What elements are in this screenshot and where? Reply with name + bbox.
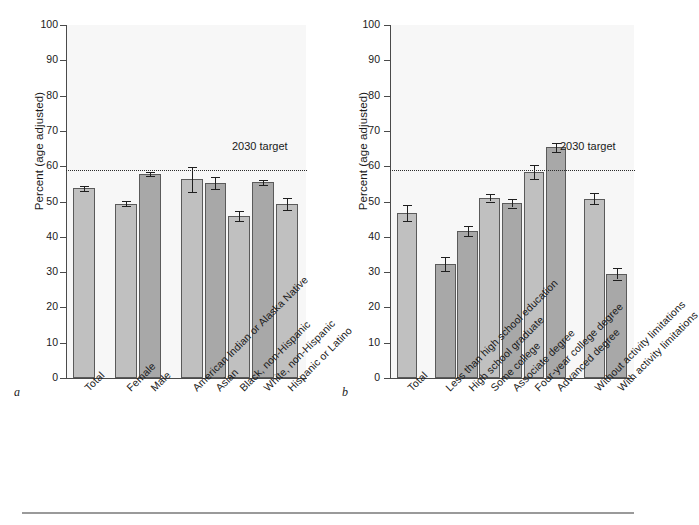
y-tick-label: 0 (334, 372, 380, 382)
error-bar-cap-upper (441, 257, 450, 258)
y-axis-line-a (66, 25, 67, 379)
y-tick-label: 70 (12, 125, 58, 135)
y-tick-mark (60, 272, 66, 273)
error-bar (594, 193, 595, 204)
bottom-rule (22, 512, 634, 514)
error-bar-cap-lower (122, 206, 131, 207)
y-tick-mark (384, 96, 390, 97)
y-tick-mark (384, 272, 390, 273)
error-bar-cap-upper (590, 193, 599, 194)
y-tick-mark (384, 25, 390, 26)
panel-letter-b: b (342, 385, 348, 400)
y-tick-label: 80 (334, 90, 380, 100)
y-tick-mark (60, 343, 66, 344)
y-tick-mark (384, 202, 390, 203)
error-bar (556, 143, 557, 152)
error-bar-cap-lower (441, 271, 450, 272)
error-bar-cap-lower (530, 179, 539, 180)
y-tick-mark (384, 343, 390, 344)
error-bar-cap-upper (283, 198, 292, 199)
y-tick-mark (384, 307, 390, 308)
error-bar (287, 198, 288, 210)
y-tick-mark (384, 166, 390, 167)
panel-a: Percent (age adjusted) 01020304050607080… (0, 0, 328, 525)
error-bar-cap-lower (464, 236, 473, 237)
y-tick-label: 60 (12, 160, 58, 170)
error-bar-cap-upper (80, 186, 89, 187)
bar (73, 188, 95, 378)
error-bar-cap-lower (403, 221, 412, 222)
y-tick-mark (384, 237, 390, 238)
y-tick-label: 50 (12, 196, 58, 206)
error-bar-cap-upper (122, 201, 131, 202)
bar (139, 174, 161, 378)
error-bar-cap-lower (235, 221, 244, 222)
y-tick-label: 30 (334, 266, 380, 276)
error-bar-cap-lower (508, 208, 517, 209)
error-bar-cap-lower (80, 191, 89, 192)
target-line-b (390, 170, 635, 171)
y-tick-label: 80 (12, 90, 58, 100)
y-tick-label: 20 (334, 301, 380, 311)
error-bar-cap-upper (464, 226, 473, 227)
error-bar-cap-upper (486, 194, 495, 195)
panel-b: Percent (age adjusted) 01020304050607080… (328, 0, 656, 525)
y-tick-mark (60, 202, 66, 203)
error-bar-cap-lower (552, 152, 561, 153)
y-tick-label: 20 (12, 301, 58, 311)
y-tick-label: 70 (334, 125, 380, 135)
y-tick-mark (60, 96, 66, 97)
y-tick-label: 100 (12, 19, 58, 29)
y-tick-label: 90 (12, 54, 58, 64)
error-bar-cap-upper (146, 172, 155, 173)
y-tick-label: 30 (12, 266, 58, 276)
error-bar-cap-upper (188, 167, 197, 168)
y-axis-title-a: Percent (age adjusted) (33, 41, 45, 261)
target-line-label-b: 2030 target (560, 140, 616, 152)
y-tick-label: 100 (334, 19, 380, 29)
error-bar (617, 268, 618, 279)
error-bar (512, 199, 513, 207)
bar (115, 204, 137, 378)
y-tick-label: 50 (334, 196, 380, 206)
error-bar-cap-upper (530, 165, 539, 166)
y-axis-line-b (390, 25, 391, 379)
y-tick-mark (60, 237, 66, 238)
error-bar-cap-upper (235, 211, 244, 212)
y-tick-label: 40 (12, 231, 58, 241)
y-tick-label: 60 (334, 160, 380, 170)
y-tick-mark (60, 166, 66, 167)
bar (205, 183, 227, 378)
error-bar (445, 257, 446, 270)
bar (181, 179, 203, 378)
y-tick-mark (60, 60, 66, 61)
bar (435, 264, 455, 378)
y-tick-label: 40 (334, 231, 380, 241)
error-bar-cap-lower (146, 176, 155, 177)
y-tick-mark (60, 378, 66, 379)
y-tick-mark (384, 378, 390, 379)
y-tick-mark (60, 25, 66, 26)
error-bar-cap-upper (259, 180, 268, 181)
panel-letter-a: a (14, 385, 20, 400)
error-bar-cap-lower (259, 185, 268, 186)
error-bar (490, 194, 491, 202)
target-line-a (66, 170, 307, 171)
error-bar-cap-lower (188, 192, 197, 193)
error-bar-cap-upper (613, 268, 622, 269)
error-bar-cap-lower (590, 204, 599, 205)
error-bar-cap-lower (211, 189, 220, 190)
error-bar (534, 165, 535, 178)
y-tick-mark (60, 307, 66, 308)
y-axis-title-b: Percent (age adjusted) (357, 41, 369, 261)
error-bar-cap-lower (613, 280, 622, 281)
error-bar-cap-upper (211, 177, 220, 178)
error-bar-cap-lower (486, 202, 495, 203)
error-bar-cap-upper (403, 205, 412, 206)
bar (397, 213, 417, 378)
y-tick-label: 0 (12, 372, 58, 382)
y-tick-label: 10 (334, 337, 380, 347)
bar (252, 182, 274, 378)
y-tick-mark (384, 131, 390, 132)
